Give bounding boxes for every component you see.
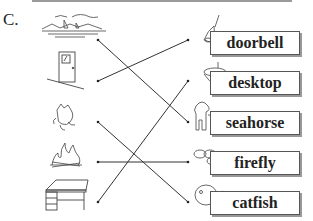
dot-left-sea[interactable] [97, 39, 100, 42]
word-box-seahorse: seahorse [210, 111, 300, 135]
fire-picture [50, 143, 82, 167]
dot-right-firefly[interactable] [187, 161, 190, 164]
dot-right-desktop[interactable] [187, 80, 190, 83]
dot-left-desk[interactable] [97, 201, 100, 204]
line-door-doorbell [98, 40, 188, 81]
line-desk-desktop [98, 81, 188, 202]
word-box-firefly: firefly [210, 151, 300, 175]
word-box-doorbell: doorbell [210, 31, 300, 55]
cat-picture [53, 104, 75, 130]
dot-right-seahorse[interactable] [187, 121, 190, 124]
dot-left-cat[interactable] [97, 121, 100, 124]
dot-left-door[interactable] [97, 80, 100, 83]
word-box-desktop: desktop [210, 71, 300, 95]
door-picture [47, 52, 84, 89]
connection-dots [97, 39, 190, 204]
dot-right-catfish[interactable] [187, 201, 190, 204]
desk-picture [46, 180, 88, 210]
line-sea-seahorse [98, 40, 188, 122]
dot-left-fire[interactable] [97, 161, 100, 164]
sea-picture [42, 15, 106, 38]
connection-lines [98, 40, 188, 202]
word-box-catfish: catfish [210, 191, 300, 215]
dot-right-doorbell[interactable] [187, 39, 190, 42]
